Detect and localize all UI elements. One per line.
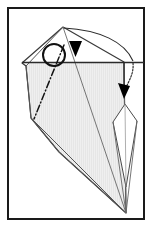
origami-diagram-figure (0, 0, 152, 227)
diagram-canvas (0, 0, 152, 227)
